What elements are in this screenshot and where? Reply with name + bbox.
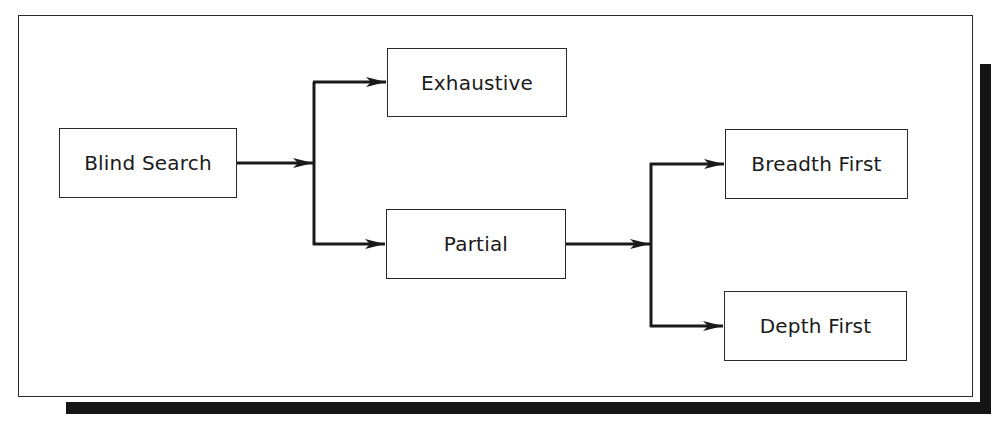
node-breadth-first: Breadth First xyxy=(725,129,908,199)
node-partial: Partial xyxy=(386,209,566,279)
node-blind-search: Blind Search xyxy=(59,128,237,198)
node-label: Exhaustive xyxy=(421,71,533,95)
node-depth-first: Depth First xyxy=(724,291,907,361)
node-exhaustive: Exhaustive xyxy=(387,48,567,117)
node-label: Depth First xyxy=(760,314,872,338)
node-label: Blind Search xyxy=(84,151,212,175)
node-label: Breadth First xyxy=(751,152,881,176)
node-label: Partial xyxy=(444,232,508,256)
